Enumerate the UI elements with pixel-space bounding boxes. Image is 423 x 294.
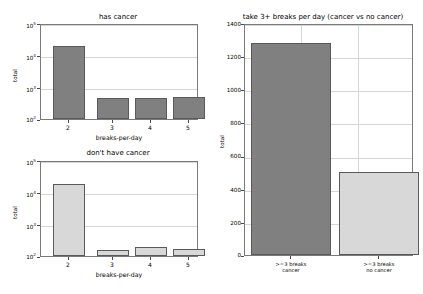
chart-title-has-cancer: has cancer	[38, 13, 198, 21]
ytick-label: 600	[216, 153, 241, 159]
xtick-mark	[378, 256, 379, 259]
gridline	[41, 25, 197, 26]
ytick-label: 1400	[216, 21, 241, 27]
bar-breaks-2	[53, 46, 85, 119]
plot-area-dont-have-cancer	[40, 161, 198, 257]
ytick-mark	[241, 24, 244, 25]
ytick-mark	[241, 190, 244, 191]
ytick-label: 105	[12, 158, 36, 166]
ytick-label: 200	[216, 220, 241, 226]
chart-title-dont-have-cancer: don't have cancer	[38, 149, 198, 157]
bar-three-plus-cancer	[251, 43, 331, 255]
ytick-mark	[241, 223, 244, 224]
bar-breaks-4	[135, 247, 167, 256]
panel-has-cancer: has cancer 105 104 103 102 total 2 3	[0, 0, 212, 147]
chart-title-three-plus-breaks: take 3+ breaks per day (cancer vs no can…	[225, 13, 421, 21]
xtick-mark	[112, 120, 113, 123]
plot-area-has-cancer	[40, 24, 198, 120]
xtick-label: 3	[100, 261, 124, 268]
bar-breaks-2	[53, 184, 85, 256]
xlabel-dont-have-cancer: breaks-per-day	[59, 271, 179, 278]
xtick-label: 5	[176, 124, 200, 131]
ytick-label: 1000	[216, 87, 241, 93]
ylabel-has-cancer: total	[12, 69, 18, 82]
xtick-label: 2	[56, 124, 80, 131]
xtick-mark	[188, 120, 189, 123]
gridline	[245, 25, 412, 26]
xtick-label: 5	[176, 261, 200, 268]
xtick-mark	[112, 257, 113, 260]
xtick-label: 4	[138, 261, 162, 268]
ytick-mark	[241, 256, 244, 257]
ytick-mark	[241, 90, 244, 91]
ytick-mark	[241, 57, 244, 58]
bar-three-plus-no-cancer	[339, 172, 419, 255]
ytick-label: 103	[12, 222, 36, 230]
xtick-label: 4	[138, 124, 162, 131]
ytick-label: 1200	[216, 54, 241, 60]
ytick-mark	[37, 24, 40, 25]
ytick-label: 104	[12, 53, 36, 61]
ytick-mark	[37, 88, 40, 89]
xtick-mark	[188, 257, 189, 260]
ytick-label: 0	[216, 252, 241, 258]
ytick-mark	[241, 123, 244, 124]
bar-breaks-5	[173, 97, 205, 119]
ytick-label: 103	[12, 85, 36, 93]
panel-dont-have-cancer: don't have cancer 105 104 103 102 total …	[0, 147, 212, 294]
bar-breaks-3	[97, 250, 129, 256]
ytick-mark	[37, 161, 40, 162]
ytick-mark	[241, 157, 244, 158]
panel-three-plus-breaks: take 3+ breaks per day (cancer vs no can…	[212, 0, 423, 294]
xtick-label-cancer: >=3 breaks cancer	[256, 261, 326, 274]
gridline	[41, 162, 197, 163]
figure-canvas: has cancer 105 104 103 102 total 2 3	[0, 0, 423, 294]
xtick-label-line2: no cancer	[344, 267, 414, 273]
bar-breaks-4	[135, 98, 167, 119]
ytick-label: 104	[12, 190, 36, 198]
xtick-mark	[150, 257, 151, 260]
ytick-mark	[37, 225, 40, 226]
ytick-mark	[37, 56, 40, 57]
xtick-label: 3	[100, 124, 124, 131]
plot-area-three-plus-breaks	[244, 24, 413, 256]
ytick-label: 400	[216, 187, 241, 193]
xtick-label-line2: cancer	[256, 267, 326, 273]
ylabel-three-plus-breaks: total	[219, 135, 225, 148]
xtick-mark	[150, 120, 151, 123]
ylabel-dont-have-cancer: total	[12, 206, 18, 219]
xtick-mark	[68, 120, 69, 123]
ytick-mark	[37, 193, 40, 194]
ytick-label: 102	[12, 252, 36, 260]
ytick-mark	[37, 120, 40, 121]
xtick-mark	[68, 257, 69, 260]
ytick-label: 105	[12, 21, 36, 29]
bar-breaks-3	[97, 98, 129, 119]
xtick-label-no-cancer: >=3 breaks no cancer	[344, 261, 414, 274]
xtick-mark	[290, 256, 291, 259]
xlabel-has-cancer: breaks-per-day	[59, 134, 179, 141]
ytick-label: 800	[216, 120, 241, 126]
xtick-label: 2	[56, 261, 80, 268]
ytick-label: 102	[12, 115, 36, 123]
bar-breaks-5	[173, 249, 205, 256]
ytick-mark	[37, 257, 40, 258]
